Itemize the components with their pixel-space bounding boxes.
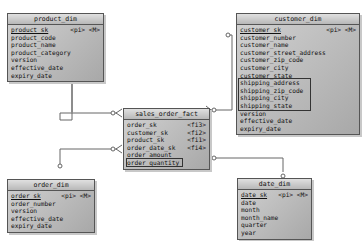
attribute-row: year (241, 229, 308, 237)
attribute-row: month (241, 206, 308, 214)
attribute-row: order_amount (127, 151, 206, 159)
attribute-row: product_code (11, 34, 100, 42)
attribute-row: order_number (11, 200, 91, 208)
attribute-row: customer_street_address (240, 49, 356, 57)
attribute-row-highlighted: order_quantity (127, 159, 206, 167)
attribute-row: version (11, 56, 100, 64)
attribute-row: product_sk<pi> <M> (11, 26, 100, 34)
attribute-row: expiry_date (240, 125, 356, 133)
entity-title: sales_order_fact (124, 109, 209, 120)
attribute-row: order_sk<fi3> (127, 121, 206, 129)
attribute-row: customer_name (240, 41, 356, 49)
attribute-row: shipping_city (240, 94, 310, 102)
attribute-row: product_sk<fi1> (127, 136, 206, 144)
attribute-row: customer_sk<fi2> (127, 129, 206, 137)
entity-sales-order-fact[interactable]: sales_order_fact order_sk<fi3> customer_… (123, 108, 210, 170)
attribute-row: effective_date (11, 215, 91, 223)
entity-date-dim[interactable]: date_dim date_sk<pi> <M> date month mont… (237, 178, 312, 240)
attribute-row: customer_city (240, 64, 356, 72)
attribute-row: effective_date (11, 64, 100, 72)
attribute-row: customer_sk<pi> <M> (240, 26, 356, 34)
attribute-row: order_sk<pi> <M> (11, 192, 91, 200)
attribute-row: customer_number (240, 34, 356, 42)
attribute-row: expiry_date (11, 222, 91, 230)
attribute-row: version (11, 207, 91, 215)
attribute-row: order_date_sk<fi4> (127, 144, 206, 152)
entity-title: order_dim (8, 180, 94, 191)
entity-title: product_dim (8, 14, 103, 25)
attribute-row: date_sk<pi> <M> (241, 191, 308, 199)
attribute-row: shipping_zip_code (240, 87, 310, 95)
attribute-row: date (241, 199, 308, 207)
entity-order-dim[interactable]: order_dim order_sk<pi> <M> order_number … (7, 179, 95, 233)
attribute-row: customer_state (240, 72, 356, 80)
entity-title: customer_dim (237, 14, 359, 25)
highlight-shipping-group: shipping_address shipping_zip_code shipp… (239, 79, 310, 109)
entity-customer-dim[interactable]: customer_dim customer_sk<pi> <M> custome… (236, 13, 360, 135)
entity-product-dim[interactable]: product_dim product_sk<pi> <M> product_c… (7, 13, 104, 82)
attribute-row: expiry_date (11, 72, 100, 80)
attribute-row: customer_zip_code (240, 56, 356, 64)
attribute-row: effective_date (240, 117, 356, 125)
attribute-row: quarter (241, 221, 308, 229)
attribute-row: shipping_state (240, 102, 310, 110)
attribute-row: month_name (241, 214, 308, 222)
attribute-row: version (240, 110, 356, 118)
attribute-row: product_name (11, 41, 100, 49)
entity-title: date_dim (238, 179, 311, 190)
attribute-row: product_category (11, 49, 100, 57)
attribute-row: shipping_address (240, 79, 310, 87)
